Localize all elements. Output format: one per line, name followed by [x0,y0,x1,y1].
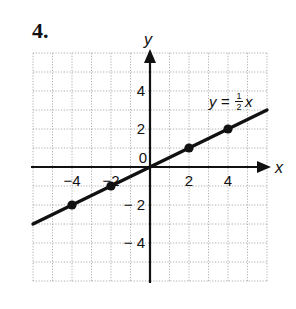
y-axis-label: y [143,31,153,48]
y-tick-label: − 4 [124,234,145,251]
y-tick-label: − 2 [124,196,145,213]
equation-label: y = 12x [208,91,253,112]
equation-rhs: x [244,93,253,110]
y-tick-label: 4 [137,82,145,99]
x-axis-arrow-icon [257,161,271,173]
equation-lhs: y = [208,93,230,110]
data-point [67,200,76,209]
data-point [223,124,232,133]
coordinate-plane-chart: −4−22442− 2− 40 xyy = 12x [0,0,296,309]
x-tick-label: 4 [224,172,232,189]
data-point [184,143,193,152]
fraction-denominator: 2 [236,102,241,112]
origin-label: 0 [139,149,147,166]
x-tick-label: −4 [63,172,80,189]
y-tick-label: 2 [137,120,145,137]
x-tick-label: 2 [185,172,193,189]
y-axis-arrow-icon [144,49,156,63]
data-point [106,181,115,190]
x-axis-label: x [274,159,284,176]
fraction-numerator: 1 [236,91,241,101]
